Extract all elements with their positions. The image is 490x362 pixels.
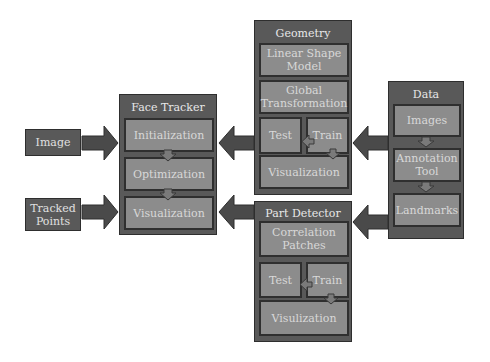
arrow-down-icon	[418, 182, 434, 192]
data-small-arrows	[0, 0, 490, 362]
arrow-down-icon	[418, 137, 434, 147]
diagram-canvas: Image Tracked Points Face Tracker Initia…	[0, 0, 490, 362]
